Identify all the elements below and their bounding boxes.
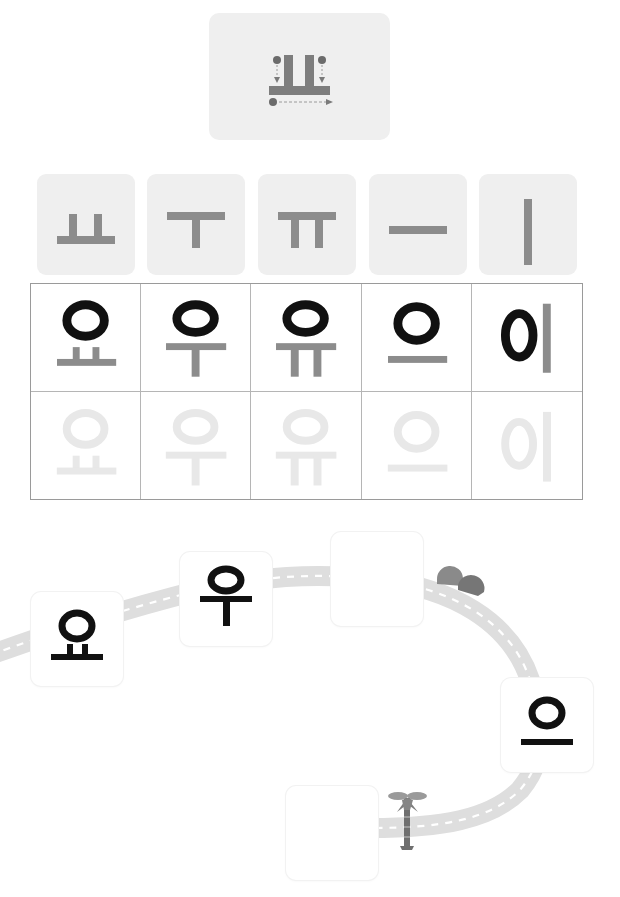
syllable-i-icon <box>472 284 582 391</box>
practice-grid <box>30 283 583 500</box>
road-stop-1[interactable] <box>31 592 123 686</box>
example-cell-yu <box>251 284 361 392</box>
vowel-tile-i[interactable] <box>479 174 577 275</box>
stroke-order-yo-icon <box>209 13 390 140</box>
trace-yu-icon <box>251 392 360 500</box>
syllable-u-icon <box>141 284 250 391</box>
stop-eu-icon <box>501 678 593 772</box>
road-stop-4[interactable] <box>501 678 593 772</box>
road-stop-3-empty[interactable] <box>331 532 423 626</box>
example-cell-eu <box>362 284 472 392</box>
vowel-yu-icon <box>258 174 356 275</box>
syllable-yo-icon <box>31 284 140 391</box>
vowel-i-icon <box>479 174 577 275</box>
trace-i-icon <box>472 392 582 500</box>
vowel-u-icon <box>147 174 245 275</box>
vowel-tile-yo[interactable] <box>37 174 135 275</box>
stroke-order-guide <box>209 13 390 140</box>
trace-yo-icon <box>31 392 140 500</box>
trace-cell-yu[interactable] <box>251 392 361 500</box>
stop-yo-icon <box>31 592 123 686</box>
vowel-tile-yu[interactable] <box>258 174 356 275</box>
example-cell-i <box>472 284 582 392</box>
syllable-yu-icon <box>251 284 360 391</box>
road-scene <box>0 510 620 897</box>
trace-cell-u[interactable] <box>141 392 251 500</box>
vowel-tile-eu[interactable] <box>369 174 467 275</box>
vowel-yo-icon <box>37 174 135 275</box>
road-stop-5-empty[interactable] <box>286 786 378 880</box>
trace-cell-i[interactable] <box>472 392 582 500</box>
stop-u-icon <box>180 552 272 646</box>
example-cell-yo <box>31 284 141 392</box>
trace-cell-eu[interactable] <box>362 392 472 500</box>
trace-u-icon <box>141 392 250 500</box>
trace-cell-yo[interactable] <box>31 392 141 500</box>
example-cell-u <box>141 284 251 392</box>
trace-eu-icon <box>362 392 471 500</box>
vowel-eu-icon <box>369 174 467 275</box>
syllable-eu-icon <box>362 284 471 391</box>
vowel-tile-u[interactable] <box>147 174 245 275</box>
road-stop-2[interactable] <box>180 552 272 646</box>
